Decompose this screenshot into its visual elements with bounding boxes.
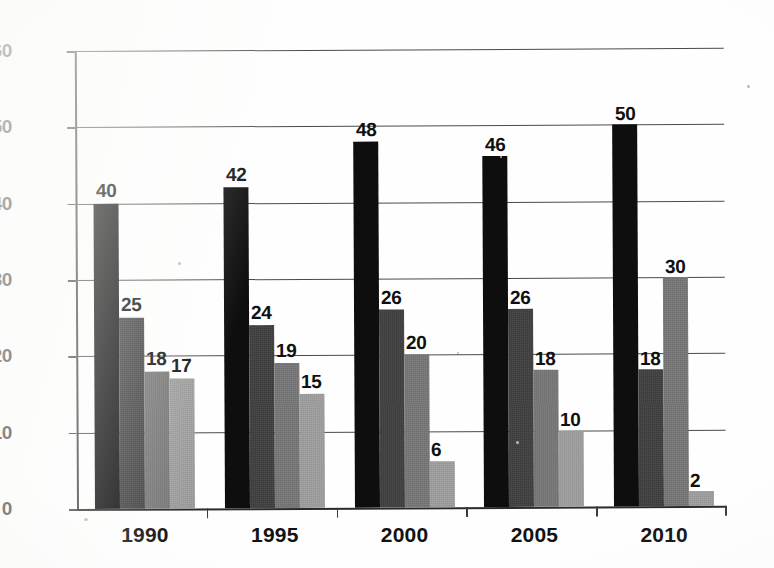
y-axis-tick-label: 30 xyxy=(0,269,12,291)
bar xyxy=(144,371,170,509)
bar-value-label: 26 xyxy=(381,286,402,308)
x-axis-tick-label: 2010 xyxy=(640,523,688,547)
bar xyxy=(404,355,430,508)
y-axis-tick xyxy=(67,127,75,129)
x-axis-tick xyxy=(337,508,339,518)
y-axis-tick-label: 60 xyxy=(0,40,12,62)
bar-value-label: 15 xyxy=(301,370,322,392)
bar-value-label: 18 xyxy=(146,348,167,370)
bar xyxy=(663,277,689,506)
bar xyxy=(639,369,665,507)
y-axis-tick-label: 10 xyxy=(0,421,12,443)
bar xyxy=(169,379,195,509)
bar-value-label: 19 xyxy=(276,340,297,362)
y-axis-tick xyxy=(69,509,77,511)
bar-value-label: 48 xyxy=(356,119,377,141)
x-axis-tick-label: 2000 xyxy=(381,523,429,547)
scan-speck xyxy=(84,518,88,521)
bar-value-label: 17 xyxy=(171,355,192,377)
bar xyxy=(299,393,325,508)
x-axis-tick-label: 2005 xyxy=(511,523,559,547)
bar-value-label: 2 xyxy=(690,470,700,492)
y-axis-tick xyxy=(67,51,75,53)
bar xyxy=(429,461,454,507)
bar xyxy=(534,369,560,507)
bar-value-label: 42 xyxy=(226,164,247,186)
bar-value-label: 18 xyxy=(535,348,556,370)
y-axis-tick-label: 50 xyxy=(0,116,12,138)
bar-value-label: 6 xyxy=(431,439,441,461)
x-axis-tick xyxy=(725,506,727,516)
bar xyxy=(689,491,714,506)
bar-value-label: 20 xyxy=(406,332,427,354)
bar xyxy=(612,125,639,507)
bar-value-label: 18 xyxy=(640,348,661,370)
bar xyxy=(559,430,584,506)
bar xyxy=(353,141,380,508)
x-axis-tick xyxy=(596,506,598,516)
y-axis-tick xyxy=(69,433,77,435)
x-axis-tick-label: 1995 xyxy=(251,523,299,547)
x-axis-tick-label: 1990 xyxy=(121,523,169,547)
y-axis-tick-label: 0 xyxy=(0,498,12,520)
y-axis-tick xyxy=(68,356,76,358)
bar-value-label: 24 xyxy=(251,302,272,324)
bar-value-label: 10 xyxy=(560,409,581,431)
x-axis-tick xyxy=(207,508,209,518)
bar xyxy=(94,203,120,508)
bar xyxy=(379,309,405,508)
y-axis-tick-label: 20 xyxy=(0,345,12,367)
bar xyxy=(223,188,250,509)
x-axis-tick xyxy=(466,507,468,517)
bar-value-label: 46 xyxy=(485,134,506,156)
bar-value-label: 26 xyxy=(510,286,531,308)
bar-value-label: 50 xyxy=(615,103,636,125)
y-axis-tick xyxy=(68,280,76,282)
bar-value-label: 40 xyxy=(96,180,117,202)
y-axis-tick xyxy=(68,204,76,206)
bar xyxy=(483,156,510,507)
bar-value-label: 30 xyxy=(665,256,686,278)
bar xyxy=(249,325,275,508)
bar xyxy=(274,363,300,508)
bar xyxy=(508,308,534,507)
bar-value-label: 25 xyxy=(121,294,142,316)
plot-area: 0102030405060 40251817422419154826206462… xyxy=(77,51,726,509)
bar-chart: 0102030405060 40251817422419154826206462… xyxy=(0,0,774,568)
scan-speck xyxy=(747,85,750,88)
y-axis-tick-label: 40 xyxy=(0,192,12,214)
bar xyxy=(119,318,145,509)
